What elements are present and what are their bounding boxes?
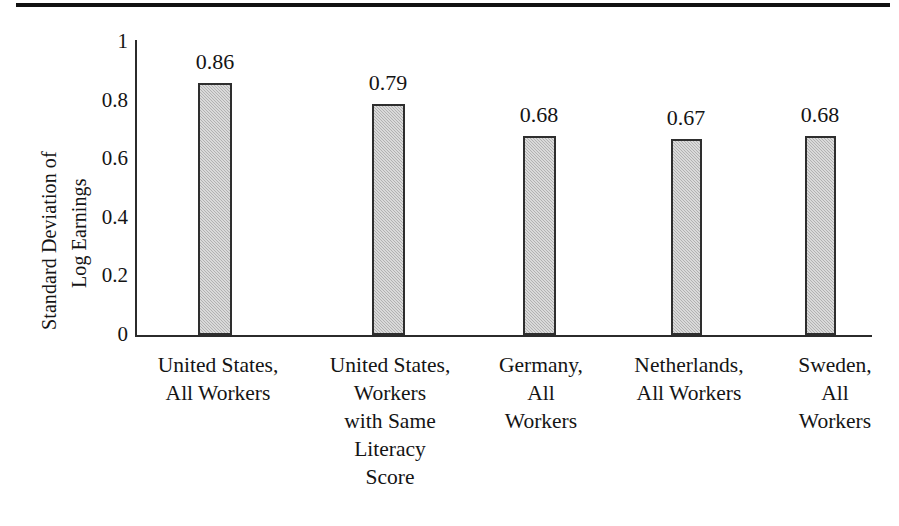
bar-value-label: 0.67 (646, 107, 726, 129)
y-axis-tick-label: 1 (78, 31, 128, 52)
x-axis-category-label-line: Germany, (468, 352, 614, 380)
bar-value-label: 0.68 (780, 104, 860, 126)
y-axis-tick-label: 0 (78, 324, 128, 345)
bar-value-label: 0.68 (499, 104, 579, 126)
y-axis-line (135, 40, 137, 336)
x-axis-category-label-line: Workers (306, 380, 474, 408)
bar-value-label: 0.86 (175, 51, 255, 73)
bar-value-label: 0.79 (348, 72, 428, 94)
x-axis-category-label: Germany,AllWorkers (468, 352, 614, 436)
x-axis-category-label-line: Sweden, (772, 352, 898, 380)
x-axis-category-label-line: United States, (306, 352, 474, 380)
x-axis-category-label-line: Netherlands, (606, 352, 772, 380)
y-axis-tick-label: 0.8 (78, 90, 128, 111)
bar (671, 139, 702, 335)
bar (523, 136, 556, 335)
x-axis-category-label-line: with Same (306, 408, 474, 436)
bar (805, 136, 836, 335)
x-axis-line (135, 335, 872, 337)
bar (198, 83, 232, 335)
x-axis-category-label: United States,Workerswith SameLiteracySc… (306, 352, 474, 492)
x-axis-category-label-line: Literacy (306, 436, 474, 464)
bar (372, 104, 405, 335)
x-axis-category-label: Sweden,AllWorkers (772, 352, 898, 436)
plot-area: Standard Deviation of Log Earnings 00.20… (0, 0, 899, 526)
y-axis-title-line-1: Standard Deviation of (38, 151, 61, 330)
x-axis-category-label-line: All (772, 380, 898, 408)
y-axis-tick-label: 0.2 (78, 265, 128, 286)
x-axis-category-label-line: United States, (134, 352, 302, 380)
y-axis-tick-label: 0.4 (78, 207, 128, 228)
x-axis-category-label-line: All (468, 380, 614, 408)
x-axis-category-label: United States,All Workers (134, 352, 302, 408)
x-axis-category-label-line: All Workers (134, 380, 302, 408)
x-axis-category-label-line: All Workers (606, 380, 772, 408)
x-axis-category-label-line: Score (306, 464, 474, 492)
x-axis-category-label: Netherlands,All Workers (606, 352, 772, 408)
chart-figure: Standard Deviation of Log Earnings 00.20… (0, 0, 899, 526)
x-axis-category-label-line: Workers (468, 408, 614, 436)
y-axis-tick-label: 0.6 (78, 148, 128, 169)
x-axis-category-label-line: Workers (772, 408, 898, 436)
